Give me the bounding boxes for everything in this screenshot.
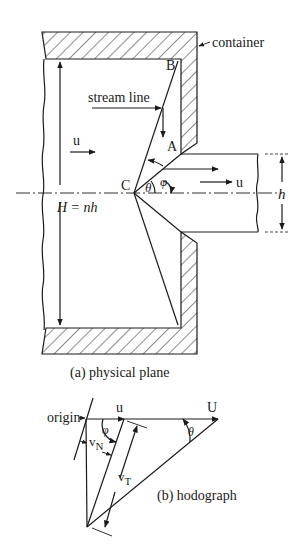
phi-label: φ xyxy=(160,174,167,189)
right-break-line xyxy=(256,154,258,232)
hodo-u-label: u xyxy=(116,400,123,415)
physical-plane xyxy=(16,32,288,354)
point-a-label: A xyxy=(167,139,178,154)
stream-line-label: stream line xyxy=(88,90,150,105)
left-break-line xyxy=(42,59,45,330)
outlet-velocity-label: u xyxy=(236,175,243,190)
inlet-velocity-label: u xyxy=(73,133,80,148)
hodo-phi-label: φ xyxy=(102,423,109,437)
vt-label: vT xyxy=(118,469,132,487)
hodo-U-label: U xyxy=(207,400,217,415)
exit-height-label: h xyxy=(278,186,286,202)
container-wall-bottom xyxy=(42,232,197,354)
hodograph-caption: (b) hodograph xyxy=(157,488,237,504)
theta-label: θ xyxy=(145,180,152,195)
point-b-label: B xyxy=(166,58,175,73)
physical-plane-caption: (a) physical plane xyxy=(70,365,170,381)
container-label: container xyxy=(212,35,264,50)
extrusion-diagram: container B stream line A u C θ φ u h H … xyxy=(0,0,301,557)
origin-label: origin xyxy=(47,410,80,425)
hodograph-labels: origin u U φ θ vN vT (b) hodograph xyxy=(47,400,237,504)
hodo-theta-label: θ xyxy=(188,425,194,439)
theta-arc xyxy=(151,181,155,193)
arc-ab xyxy=(148,160,163,166)
point-c-label: C xyxy=(121,178,130,193)
total-height-label: H = nh xyxy=(56,200,98,215)
hodograph xyxy=(74,398,218,536)
